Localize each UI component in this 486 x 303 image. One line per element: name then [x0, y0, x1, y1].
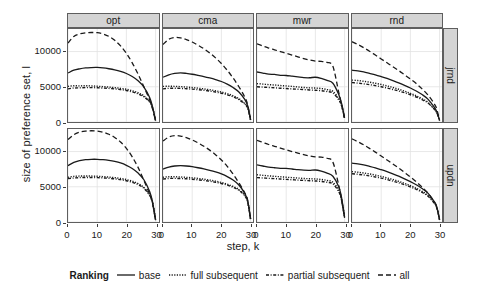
series-line-base [352, 70, 440, 120]
series-line-partial-subsequent [68, 88, 156, 121]
panel-rnd-updn [351, 128, 444, 223]
panel-cma-updn [162, 128, 255, 223]
series-line-base [257, 164, 345, 216]
legend-key-partial-subsequent [265, 268, 285, 282]
y-tick-label: 10000 [21, 46, 61, 56]
row-strip-updn: updn [443, 128, 458, 223]
series-line-partial-subsequent [163, 178, 251, 219]
legend-label: all [400, 270, 410, 281]
column-strip-mwr: mwr [256, 13, 349, 28]
series-line-base [257, 72, 345, 118]
x-tick-mark [251, 224, 252, 227]
panel-cma-jrnd [162, 28, 255, 123]
series-line-base [68, 159, 156, 220]
x-tick-label: 20 [310, 230, 321, 240]
legend-item-full-subsequent[interactable]: full subsequent [168, 268, 258, 282]
x-tick-label: 0 [348, 230, 353, 240]
x-tick-mark [316, 224, 317, 227]
legend-label: base [139, 270, 161, 281]
legend-key-all [377, 268, 397, 282]
series-line-base [163, 73, 251, 120]
legend-item-all[interactable]: all [377, 268, 410, 282]
chart-root: size of preference set, l step, k 050001… [0, 0, 486, 303]
x-tick-label: 10 [92, 230, 103, 240]
panel-opt-jrnd [67, 28, 160, 123]
column-strip-rnd: rnd [351, 13, 444, 28]
series-line-all [352, 138, 440, 219]
y-tick-label: 0 [21, 118, 61, 128]
x-tick-mark [191, 224, 192, 227]
y-tick-label: 5000 [21, 82, 61, 92]
series-line-all [257, 44, 345, 119]
series-line-full-subsequent [352, 80, 440, 120]
legend: Ranking basefull subsequentpartial subse… [0, 268, 486, 282]
x-tick-label: 0 [64, 230, 69, 240]
series-line-full-subsequent [68, 86, 156, 121]
x-tick-mark [410, 224, 411, 227]
series-line-partial-subsequent [68, 177, 156, 220]
series-line-full-subsequent [352, 171, 440, 219]
legend-label: full subsequent [191, 270, 258, 281]
legend-key-full-subsequent [168, 268, 188, 282]
y-tick-mark [63, 187, 66, 188]
x-tick-mark [286, 224, 287, 227]
x-tick-mark [346, 224, 347, 227]
series-line-partial-subsequent [257, 177, 345, 217]
x-tick-mark [256, 224, 257, 227]
x-tick-mark [97, 224, 98, 227]
x-tick-label: 20 [121, 230, 132, 240]
series-line-base [163, 165, 251, 218]
legend-label: partial subsequent [288, 270, 370, 281]
y-tick-mark [63, 51, 66, 52]
series-line-base [68, 67, 156, 120]
x-tick-label: 10 [186, 230, 197, 240]
legend-item-partial-subsequent[interactable]: partial subsequent [265, 268, 370, 282]
series-line-base [352, 163, 440, 219]
x-tick-label: 20 [216, 230, 227, 240]
y-tick-label: 10000 [21, 146, 61, 156]
y-tick-mark [63, 123, 66, 124]
panel-rnd-jrnd [351, 28, 444, 123]
panel-mwr-updn [256, 128, 349, 223]
x-tick-mark [440, 224, 441, 227]
x-tick-mark [157, 224, 158, 227]
series-line-full-subsequent [68, 175, 156, 219]
x-tick-mark [67, 224, 68, 227]
series-line-all [68, 32, 156, 120]
y-tick-mark [63, 87, 66, 88]
x-tick-label: 30 [435, 230, 446, 240]
series-line-full-subsequent [257, 174, 345, 216]
column-strip-opt: opt [67, 13, 160, 28]
series-line-partial-subsequent [163, 88, 251, 120]
series-line-partial-subsequent [257, 87, 345, 118]
x-axis-label: step, k [0, 240, 486, 252]
x-tick-label: 10 [375, 230, 386, 240]
x-tick-label: 10 [281, 230, 292, 240]
row-strip-label: updn [445, 164, 456, 186]
x-tick-mark [127, 224, 128, 227]
y-tick-mark [63, 151, 66, 152]
column-strip-cma: cma [162, 13, 255, 28]
y-tick-mark [63, 223, 66, 224]
legend-item-base[interactable]: base [116, 268, 161, 282]
x-tick-label: 0 [253, 230, 258, 240]
x-tick-mark [162, 224, 163, 227]
x-tick-label: 0 [159, 230, 164, 240]
x-tick-label: 20 [405, 230, 416, 240]
legend-title: Ranking [69, 270, 108, 281]
y-tick-label: 0 [21, 218, 61, 228]
y-tick-label: 5000 [21, 182, 61, 192]
series-line-all [163, 37, 251, 120]
row-strip-jrnd: jrnd [443, 28, 458, 123]
row-strip-label: jrnd [445, 67, 456, 84]
panel-opt-updn [67, 128, 160, 223]
x-tick-mark [221, 224, 222, 227]
panel-mwr-jrnd [256, 28, 349, 123]
x-tick-mark [380, 224, 381, 227]
x-tick-mark [351, 224, 352, 227]
legend-key-base [116, 268, 136, 282]
